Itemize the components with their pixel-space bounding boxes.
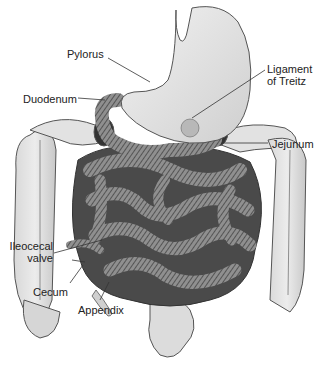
label-ileocecal-valve: Ileocecal valve: [7, 240, 53, 264]
stomach: [121, 7, 251, 144]
label-ileocecal-line2: valve: [7, 252, 53, 264]
label-ileocecal-line1: Ileocecal: [7, 240, 53, 252]
label-cecum: Cecum: [33, 286, 68, 298]
small-intestine: [70, 147, 261, 306]
label-pylorus: Pylorus: [67, 48, 104, 60]
digestive-tract-illustration: [0, 0, 325, 368]
label-jejunum: Jejunum: [272, 138, 314, 150]
ligament-of-treitz-marker: [181, 119, 199, 137]
label-ligament-of-treitz: Ligament of Treitz: [267, 63, 312, 87]
label-duodenum: Duodenum: [23, 93, 77, 105]
label-appendix: Appendix: [78, 304, 124, 316]
label-ligament-line1: Ligament: [267, 63, 312, 75]
label-ligament-line2: of Treitz: [267, 75, 312, 87]
